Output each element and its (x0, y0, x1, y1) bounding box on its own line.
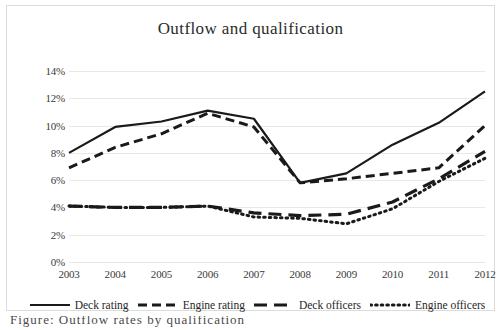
gridline (69, 262, 485, 263)
legend-entry-engine-officers[interactable]: Engine officers (370, 299, 485, 311)
chart-figure: Outflow and qualification 0%2%4%6%8%10%1… (6, 5, 495, 311)
caption-strip: Figure: Outflow rates by qualification (0, 316, 501, 330)
legend-label: Engine rating (183, 299, 245, 311)
legend-label: Deck officers (299, 299, 361, 311)
y-axis-labels: 0%2%4%6%8%10%12%14% (21, 63, 65, 270)
caption-text: Figure: Outflow rates by qualification (10, 316, 245, 328)
legend-swatch-icon (30, 300, 70, 310)
legend-entry-engine-rating[interactable]: Engine rating (138, 299, 245, 311)
x-axis-labels: 2003200420052006200720082009201020112012 (69, 268, 485, 286)
legend-entry-deck-rating[interactable]: Deck rating (30, 299, 129, 311)
y-axis-tick-label: 0% (21, 256, 65, 268)
series-line-engine-rating (69, 113, 485, 183)
x-axis-tick-label: 2005 (151, 268, 172, 280)
plot-area (69, 71, 485, 262)
y-axis-tick-label: 6% (21, 174, 65, 186)
x-axis-tick-label: 2009 (336, 268, 357, 280)
y-axis-tick-label: 2% (21, 229, 65, 241)
legend-swatch-icon (370, 300, 410, 310)
y-axis-tick-label: 14% (21, 65, 65, 77)
x-axis-tick-label: 2008 (290, 268, 311, 280)
legend-entry-deck-officers[interactable]: Deck officers (254, 299, 361, 311)
x-axis-tick-label: 2004 (105, 268, 126, 280)
x-axis-tick-label: 2003 (58, 268, 79, 280)
y-axis-tick-label: 12% (21, 92, 65, 104)
legend-label: Engine officers (415, 299, 485, 311)
x-axis-tick-label: 2012 (474, 268, 495, 280)
x-axis-tick-label: 2006 (197, 268, 218, 280)
legend-swatch-icon (254, 300, 294, 310)
legend-swatch-icon (138, 300, 178, 310)
chart-title: Outflow and qualification (7, 19, 494, 39)
chart-legend: Deck ratingEngine ratingDeck officersEng… (13, 294, 501, 316)
y-axis-tick-label: 8% (21, 147, 65, 159)
series-lines (69, 71, 485, 262)
x-axis-tick-label: 2007 (243, 268, 264, 280)
y-axis-tick-label: 10% (21, 120, 65, 132)
y-axis-tick-label: 4% (21, 201, 65, 213)
legend-label: Deck rating (75, 299, 129, 311)
x-axis-tick-label: 2010 (382, 268, 403, 280)
x-axis-tick-label: 2011 (428, 268, 449, 280)
